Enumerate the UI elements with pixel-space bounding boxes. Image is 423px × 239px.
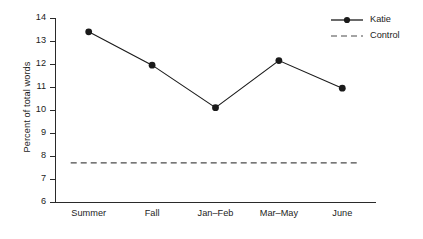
legend-label-katie: Katie (370, 15, 391, 24)
data-point-marker (339, 85, 346, 92)
legend-item-control: Control (330, 28, 422, 44)
data-point-marker (212, 104, 219, 111)
legend-sample-dashed-line-icon (330, 28, 364, 44)
legend-label-control: Control (370, 31, 400, 40)
caption-sliver (6, 231, 206, 239)
katie-polyline (89, 32, 343, 108)
data-point-marker (85, 28, 92, 35)
series-katie-markers (85, 28, 345, 111)
legend-item-katie: Katie (330, 12, 422, 28)
chart-legend: Katie Control (330, 12, 422, 44)
data-point-marker (275, 57, 282, 64)
line-chart-figure: Percent of total words 67891011121314 Su… (0, 0, 423, 239)
data-point-marker (149, 62, 156, 69)
legend-sample-solid-line-marker-icon (330, 12, 364, 28)
series-katie-line (89, 32, 343, 108)
